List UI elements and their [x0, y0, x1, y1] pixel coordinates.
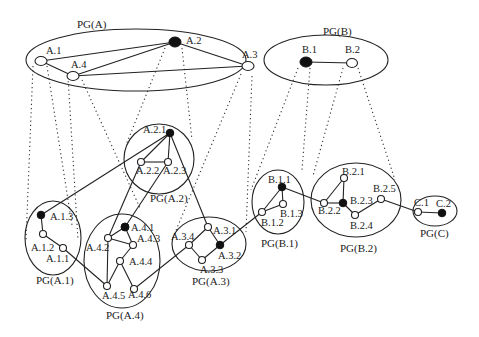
group-label-pg-a4: PG(A.4) [106, 309, 144, 322]
node-b2-4 [352, 212, 359, 219]
node-a3 [242, 62, 254, 71]
svg-text:A.4.6: A.4.6 [128, 289, 151, 300]
node-b1 [300, 57, 312, 67]
svg-text:A.4.5: A.4.5 [102, 290, 125, 301]
svg-text:A.4: A.4 [71, 59, 87, 70]
svg-text:A.1: A.1 [46, 45, 61, 56]
node-a4-4 [117, 258, 124, 265]
svg-text:A.2.1: A.2.1 [143, 124, 166, 135]
node-c2 [438, 209, 446, 217]
node-a1-2 [40, 231, 47, 238]
svg-text:A.4.2: A.4.2 [86, 242, 109, 253]
node-b2 [347, 59, 358, 68]
node-a1 [35, 57, 47, 66]
group-label-pg-b2: PG(B.2) [340, 242, 377, 255]
node-a4-3 [130, 242, 137, 249]
node-a4-1 [121, 223, 129, 231]
node-b1-3 [280, 201, 287, 208]
node-b2-3 [339, 199, 347, 207]
svg-text:A.3.4: A.3.4 [171, 231, 195, 242]
svg-text:B.1: B.1 [302, 44, 317, 55]
svg-text:B.1.3: B.1.3 [280, 208, 303, 219]
node-c1 [415, 209, 422, 216]
group-label-pg-a2: PG(A.2) [150, 192, 188, 205]
region-pg-b [264, 35, 388, 85]
group-label-pg-a3: PG(A.3) [192, 275, 230, 288]
node-a3-1 [205, 224, 212, 231]
svg-text:A.2.3: A.2.3 [163, 165, 186, 176]
node-a3-2 [216, 241, 224, 249]
node-a2 [169, 37, 181, 47]
svg-text:A.1.3: A.1.3 [50, 211, 73, 222]
partition-graph-diagram: PG(A) PG(B) PG(A.1) PG(A.2) PG(A.4) PG(A… [0, 0, 479, 337]
node-a4-5 [104, 283, 111, 290]
svg-text:B.2.1: B.2.1 [342, 166, 365, 177]
svg-text:A.1.2: A.1.2 [31, 242, 54, 253]
svg-text:B.1.1: B.1.1 [268, 174, 291, 185]
svg-text:A.4.1: A.4.1 [131, 222, 154, 233]
group-label-pg-a1: PG(A.1) [36, 274, 74, 287]
svg-text:A.4.3: A.4.3 [137, 233, 160, 244]
svg-text:A.3.3: A.3.3 [200, 264, 223, 275]
svg-text:A.3: A.3 [242, 49, 257, 60]
node-a1-3 [37, 211, 45, 219]
node-a3-4 [186, 242, 193, 249]
svg-text:A.3.2: A.3.2 [218, 250, 241, 261]
node-a2-1 [166, 129, 174, 137]
node-a4-2 [105, 235, 112, 242]
region-pg-a [26, 29, 246, 91]
node-b2-5 [378, 196, 385, 203]
group-label-pg-b: PG(B) [323, 25, 352, 38]
svg-text:B.2.3: B.2.3 [350, 195, 373, 206]
node-a1-1 [60, 245, 67, 252]
svg-text:A.2.2: A.2.2 [136, 165, 159, 176]
group-label-pg-c: PG(C) [420, 227, 449, 240]
svg-text:A.2: A.2 [186, 35, 201, 46]
svg-text:A.4.4: A.4.4 [129, 256, 153, 267]
svg-text:A.3.1: A.3.1 [213, 225, 236, 236]
node-b1-2 [259, 209, 266, 216]
node-a3-3 [199, 257, 206, 264]
group-label-pg-b1: PG(B.1) [261, 237, 298, 250]
svg-text:B.2.2: B.2.2 [318, 205, 341, 216]
svg-text:C.1: C.1 [414, 197, 429, 208]
node-a4 [67, 72, 79, 81]
svg-text:B.2.4: B.2.4 [350, 220, 374, 231]
svg-text:C.2: C.2 [436, 198, 451, 209]
group-label-pg-a: PG(A) [77, 18, 107, 31]
svg-text:B.2: B.2 [345, 44, 360, 55]
svg-text:B.2.5: B.2.5 [373, 183, 396, 194]
svg-text:A.1.1: A.1.1 [46, 253, 69, 264]
